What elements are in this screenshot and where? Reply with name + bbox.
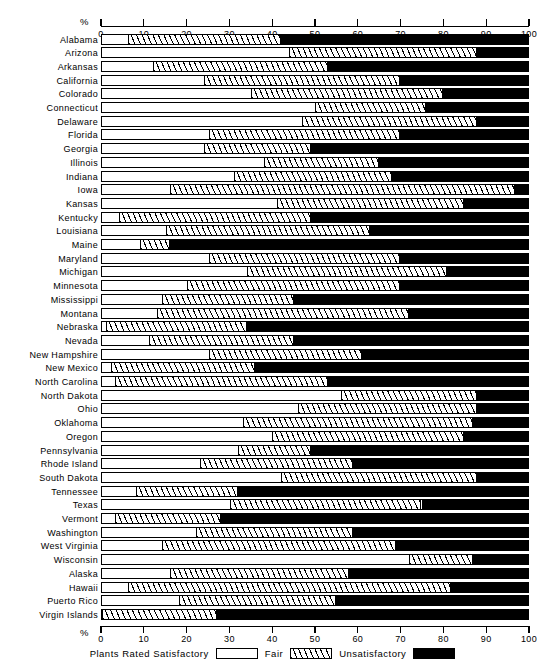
axis-bottom-tick-20 [186, 626, 187, 633]
segment-fair [264, 158, 379, 167]
stacked-bar [101, 554, 529, 565]
bar-row: Louisiana [0, 225, 545, 238]
segment-fair [102, 610, 217, 619]
axis-top-tick-20 [186, 19, 187, 26]
segment-unsatisfactory [464, 432, 528, 441]
bar-row: California [0, 75, 545, 88]
bar-row: Montana [0, 308, 545, 321]
segment-fair [204, 144, 311, 153]
stacked-bar [101, 499, 529, 510]
bar-row: Delaware [0, 116, 545, 129]
axis-top-tick-100 [528, 19, 529, 26]
axis-bottom-tick-50 [314, 626, 315, 633]
segment-unsatisfactory [473, 555, 528, 564]
axis-bottom-tick-60 [357, 626, 358, 633]
segment-fair [204, 76, 400, 85]
segment-unsatisfactory [422, 500, 529, 509]
segment-satisfactory [102, 391, 341, 400]
segment-fair [179, 596, 337, 605]
bar-row: Kansas [0, 198, 545, 211]
axis-bottom-tick-label-60: 60 [352, 635, 363, 644]
bar-row-label: Oklahoma [54, 418, 98, 429]
bar-row: Maryland [0, 253, 545, 266]
bar-row-label: Colorado [59, 89, 98, 100]
bar-row: Nevada [0, 335, 545, 348]
bar-row-label: Michigan [59, 267, 98, 278]
axis-bottom-tick-label-30: 30 [224, 635, 235, 644]
bar-row-label: North Carolina [35, 377, 98, 388]
bar-row: North Dakota [0, 390, 545, 403]
stacked-bar [101, 568, 529, 579]
bar-row-label: Virgin Islands [39, 610, 98, 621]
stacked-bar [101, 417, 529, 428]
segment-fair [119, 213, 311, 222]
axis-bottom-tick-80 [443, 626, 444, 633]
axis-bottom-tick-30 [229, 626, 230, 633]
segment-unsatisfactory [247, 322, 528, 331]
axis-unit-label-bottom: % [80, 628, 89, 638]
stacked-bar [101, 157, 529, 168]
segment-unsatisfactory [379, 158, 528, 167]
bar-row-label: Kansas [66, 199, 98, 210]
bar-row-label: Ohio [78, 404, 98, 415]
segment-unsatisfactory [353, 528, 528, 537]
bar-row: Vermont [0, 513, 545, 526]
segment-satisfactory [102, 500, 230, 509]
segment-unsatisfactory [336, 596, 528, 605]
segment-satisfactory [102, 89, 251, 98]
axis-bottom-tick-label-70: 70 [395, 635, 406, 644]
segment-satisfactory [102, 377, 115, 386]
stacked-bar [101, 376, 529, 387]
segment-satisfactory [102, 596, 179, 605]
bar-row: Nebraska [0, 321, 545, 334]
stacked-bar [101, 184, 529, 195]
segment-unsatisfactory [451, 583, 528, 592]
segment-fair [140, 240, 170, 249]
segment-satisfactory [102, 35, 128, 44]
legend-label-unsatisfactory: Unsatisfactory [339, 648, 406, 659]
segment-fair [234, 172, 392, 181]
bar-row-label: Delaware [57, 117, 98, 128]
segment-unsatisfactory [464, 199, 528, 208]
bar-row: Wisconsin [0, 554, 545, 567]
segment-satisfactory [102, 103, 315, 112]
bar-row-label: New Hampshire [29, 350, 98, 361]
segment-fair [200, 459, 353, 468]
segment-fair [153, 62, 328, 71]
segment-satisfactory [102, 555, 409, 564]
bar-row-label: Montana [61, 309, 98, 320]
segment-satisfactory [102, 487, 136, 496]
bar-row: New Hampshire [0, 349, 545, 362]
stacked-bar [101, 321, 529, 332]
bar-row-label: Puerto Rico [47, 596, 98, 607]
segment-fair [187, 281, 400, 290]
segment-fair [136, 487, 238, 496]
bar-row: Colorado [0, 88, 545, 101]
segment-unsatisfactory [447, 267, 528, 276]
stacked-bar [101, 486, 529, 497]
axis-bottom-tick-label-20: 20 [181, 635, 192, 644]
stacked-bar [101, 280, 529, 291]
axis-bottom-tick-label-80: 80 [438, 635, 449, 644]
bar-row: Tennessee [0, 486, 545, 499]
segment-unsatisfactory [443, 89, 528, 98]
bar-row: Minnesota [0, 280, 545, 293]
segment-satisfactory [102, 185, 170, 194]
axis-bottom-tick-70 [400, 626, 401, 633]
segment-unsatisfactory [477, 48, 528, 57]
stacked-bar [101, 362, 529, 373]
segment-satisfactory [102, 541, 162, 550]
segment-unsatisfactory [221, 514, 528, 523]
segment-fair [196, 528, 354, 537]
segment-satisfactory [102, 199, 277, 208]
bar-row-label: Nevada [65, 336, 98, 347]
segment-fair [243, 418, 473, 427]
stacked-bar [101, 171, 529, 182]
segment-fair [409, 555, 473, 564]
bar-row: North Carolina [0, 376, 545, 389]
bar-row-label: Tennessee [51, 487, 98, 498]
segment-unsatisfactory [400, 130, 528, 139]
stacked-bar [101, 143, 529, 154]
segment-unsatisfactory [328, 377, 528, 386]
segment-fair [170, 569, 349, 578]
